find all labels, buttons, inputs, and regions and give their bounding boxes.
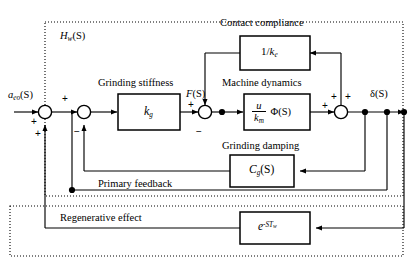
sign-sum1-regen-plus: + <box>35 128 41 139</box>
caption-grinding-damping: Grinding damping <box>222 140 299 151</box>
caption-grinding-stiffness: Grinding stiffness <box>98 77 173 88</box>
tap-node-sum3-out <box>219 109 225 115</box>
caption-machine-dynamics: Machine dynamics <box>222 77 302 88</box>
sign-sum4-cc-plus: + <box>331 91 337 102</box>
blocktext-regenerative-delay: e-STw <box>258 220 277 232</box>
label-signal-force: F(S) <box>186 88 205 99</box>
fraction-u-over-km: u km <box>252 100 266 126</box>
sign-sum4-extra-plus: + <box>345 91 351 102</box>
sign-sum4-in-plus: + <box>322 100 328 111</box>
sign-sum2-in-plus: + <box>62 93 68 104</box>
tap-node-sum1-fb <box>69 187 75 193</box>
figure-canvas: Hw(S) aeo(S) F(S) δ(S) Contact complianc… <box>0 0 415 264</box>
caption-contact-compliance: Contact compliance <box>220 17 304 28</box>
blocktext-machine-dynamics: u km Φ(S) <box>252 100 291 126</box>
caption-primary-feedback: Primary feedback <box>98 178 172 189</box>
sign-sum2-damping-minus: − <box>74 126 80 137</box>
sum-junction-2 <box>77 105 90 118</box>
sum-junction-4 <box>334 105 347 118</box>
tap-node-gd <box>362 109 368 115</box>
label-signal-output: δ(S) <box>370 88 388 99</box>
blocktext-contact-compliance: 1/1/kke <box>261 45 278 59</box>
tap-node-regen <box>401 109 407 115</box>
caption-regenerative-effect: Regenerative effect <box>60 212 142 223</box>
sign-sum3-in-plus: + <box>188 99 194 110</box>
sign-sum1-input-plus: + <box>31 116 37 127</box>
boundary-hw-region <box>45 22 403 196</box>
sum-junction-3 <box>198 105 211 118</box>
blocktext-grinding-damping: Cg(S) <box>249 163 274 177</box>
sum-junction-1 <box>38 105 51 118</box>
label-hw-region: Hw(S) <box>60 30 85 43</box>
label-signal-input: aeo(S) <box>8 89 33 102</box>
tap-node-primary <box>384 109 390 115</box>
blocktext-grinding-stiffness: kg <box>144 104 153 119</box>
sign-sum3-cc-minus: − <box>196 126 202 137</box>
